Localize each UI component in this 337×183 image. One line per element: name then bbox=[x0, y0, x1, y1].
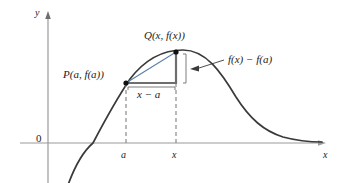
calculus-secant-figure: y x 0 a x Q(x, f(x)) P(a, f(a)) f(x) − f… bbox=[0, 0, 337, 183]
secant-line-pq bbox=[126, 52, 176, 83]
point-q bbox=[173, 49, 178, 54]
origin-label: 0 bbox=[36, 133, 42, 144]
x-axis-arrow-icon bbox=[318, 140, 326, 146]
point-p-label: P(a, f(a)) bbox=[63, 69, 104, 80]
rise-annotation-label: f(x) − f(a) bbox=[228, 54, 272, 65]
figure-canvas bbox=[0, 0, 337, 183]
x-axis-label: x bbox=[323, 150, 327, 160]
x-tick-label-a: a bbox=[121, 150, 126, 160]
x-tick-label-x: x bbox=[172, 150, 176, 160]
point-p bbox=[123, 80, 128, 85]
y-axis-label: y bbox=[35, 8, 39, 18]
y-axis-arrow-icon bbox=[45, 11, 51, 19]
run-annotation-label: x − a bbox=[137, 89, 160, 100]
rise-leader-arrow-icon bbox=[190, 66, 199, 72]
point-q-label: Q(x, f(x)) bbox=[144, 30, 185, 41]
rise-leader-line bbox=[199, 60, 224, 68]
